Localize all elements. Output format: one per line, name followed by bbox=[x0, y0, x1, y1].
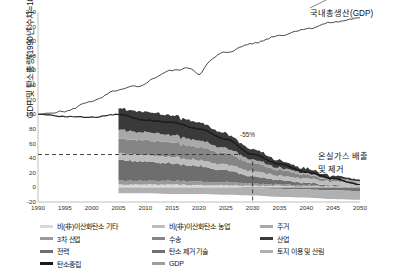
chart-legend: 비(非)이산화탄소 기타비(非)이산화탄소 농업주거3차 산업수송산업전력탄소 … bbox=[40, 220, 370, 270]
x-axis-tick-label: 2040 bbox=[299, 204, 313, 211]
x-axis-tick-label: 2045 bbox=[326, 204, 340, 211]
legend-item[interactable]: 탄소 제거 기술 bbox=[152, 246, 260, 256]
y-axis-ticks: -20020406080100120140160180200220240 bbox=[16, 12, 36, 202]
y-axis-tick-label: 60 bbox=[29, 140, 36, 146]
x-axis-tick-label: 2020 bbox=[192, 204, 206, 211]
legend-item[interactable]: 수송 bbox=[152, 234, 260, 244]
legend-swatch bbox=[152, 225, 165, 228]
legend-label: 3차 산업 bbox=[57, 234, 80, 244]
legend-label: 탄소중립 bbox=[57, 259, 81, 269]
plot-area: -20020406080100120140160180200220240 199… bbox=[38, 12, 360, 202]
chart-plot-svg bbox=[38, 12, 360, 202]
line-series bbox=[38, 18, 360, 115]
x-axis-tick-label: 1995 bbox=[58, 204, 72, 211]
x-axis-tick-label: 2030 bbox=[246, 204, 260, 211]
legend-swatch bbox=[40, 250, 53, 253]
legend-swatch bbox=[152, 262, 165, 265]
y-axis-tick-label: 240 bbox=[26, 9, 36, 15]
legend-item[interactable]: 비(非)이산화탄소 기타 bbox=[40, 221, 152, 231]
x-axis-tick-label: 2010 bbox=[138, 204, 152, 211]
gdp-leader-line bbox=[310, 0, 338, 8]
legend-label: 주거 bbox=[277, 221, 289, 231]
legend-label: 탄소 제거 기술 bbox=[169, 246, 208, 256]
legend-item[interactable]: 주거 bbox=[260, 221, 370, 231]
y-axis-tick-label: 20 bbox=[29, 170, 36, 176]
legend-label: 토지 이용 및 산림 bbox=[277, 246, 324, 256]
legend-label: 비(非)이산화탄소 기타 bbox=[57, 221, 117, 231]
annotation-gdp: 국내총생산(GDP) bbox=[310, 8, 373, 19]
legend-label: 전력 bbox=[57, 246, 69, 256]
legend-item[interactable]: GDP bbox=[152, 260, 260, 267]
y-axis-tick-label: 120 bbox=[26, 97, 36, 103]
legend-swatch bbox=[40, 225, 53, 228]
x-axis-ticks: 1990199520002005201020152020202520302035… bbox=[38, 202, 360, 216]
legend-swatch bbox=[40, 237, 53, 240]
x-axis-tick-label: 2015 bbox=[165, 204, 179, 211]
legend-item[interactable]: 3차 산업 bbox=[40, 234, 152, 244]
y-axis-tick-label: 100 bbox=[26, 111, 36, 117]
legend-swatch bbox=[152, 237, 165, 240]
x-axis-tick-label: 1990 bbox=[31, 204, 45, 211]
legend-swatch bbox=[260, 237, 273, 240]
legend-label: 비(非)이산화탄소 농업 bbox=[169, 221, 229, 231]
chart-container: GDP 및 탄소총량(1990년 수치=100) -20020406080100… bbox=[0, 0, 404, 278]
legend-label: GDP bbox=[169, 260, 184, 267]
x-axis-tick-label: 2050 bbox=[353, 204, 367, 211]
x-axis-tick-label: 2035 bbox=[273, 204, 287, 211]
y-axis-tick-label: 40 bbox=[29, 155, 36, 161]
annotation-emissions-line1: 온실가스 배출 bbox=[318, 151, 368, 162]
y-axis-tick-label: 80 bbox=[29, 126, 36, 132]
legend-item[interactable]: 토지 이용 및 산림 bbox=[260, 246, 370, 256]
legend-item[interactable]: 산업 bbox=[260, 234, 370, 244]
legend-item[interactable]: 전력 bbox=[40, 246, 152, 256]
annotation-emissions-line2: 및 제거 bbox=[318, 164, 344, 175]
legend-swatch bbox=[260, 250, 273, 253]
x-axis-tick-label: 2025 bbox=[219, 204, 233, 211]
legend-swatch bbox=[260, 225, 273, 228]
legend-swatch bbox=[152, 250, 165, 253]
annotation-target-reduction: -55% bbox=[240, 131, 255, 138]
x-axis-tick-label: 2000 bbox=[85, 204, 99, 211]
legend-item[interactable]: 탄소중립 bbox=[40, 259, 152, 269]
y-axis-tick-label: 160 bbox=[26, 67, 36, 73]
legend-label: 수송 bbox=[169, 234, 181, 244]
y-axis-tick-label: 180 bbox=[26, 53, 36, 59]
legend-swatch bbox=[40, 262, 53, 265]
legend-item[interactable]: 비(非)이산화탄소 농업 bbox=[152, 221, 260, 231]
y-axis-tick-label: 0 bbox=[33, 184, 36, 190]
y-axis-tick-label: 220 bbox=[26, 24, 36, 30]
x-axis-tick-label: 2005 bbox=[112, 204, 126, 211]
y-axis-tick-label: 200 bbox=[26, 38, 36, 44]
legend-label: 산업 bbox=[277, 234, 289, 244]
y-axis-tick-label: 140 bbox=[26, 82, 36, 88]
